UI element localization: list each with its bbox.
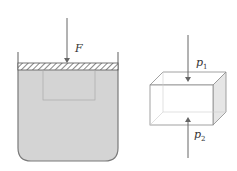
liquid-body [18, 70, 118, 161]
top-pressure-label: p1 [196, 56, 208, 71]
bottom-pressure-label: p2 [194, 128, 206, 143]
container-figure: F [18, 18, 118, 161]
diagram-canvas: F p1 p2 [0, 0, 237, 171]
force-label: F [74, 42, 83, 55]
prism-front-face [150, 85, 213, 125]
force-arrow-head [64, 58, 70, 63]
piston [18, 63, 118, 70]
prism-figure: p1 p2 [150, 35, 226, 158]
